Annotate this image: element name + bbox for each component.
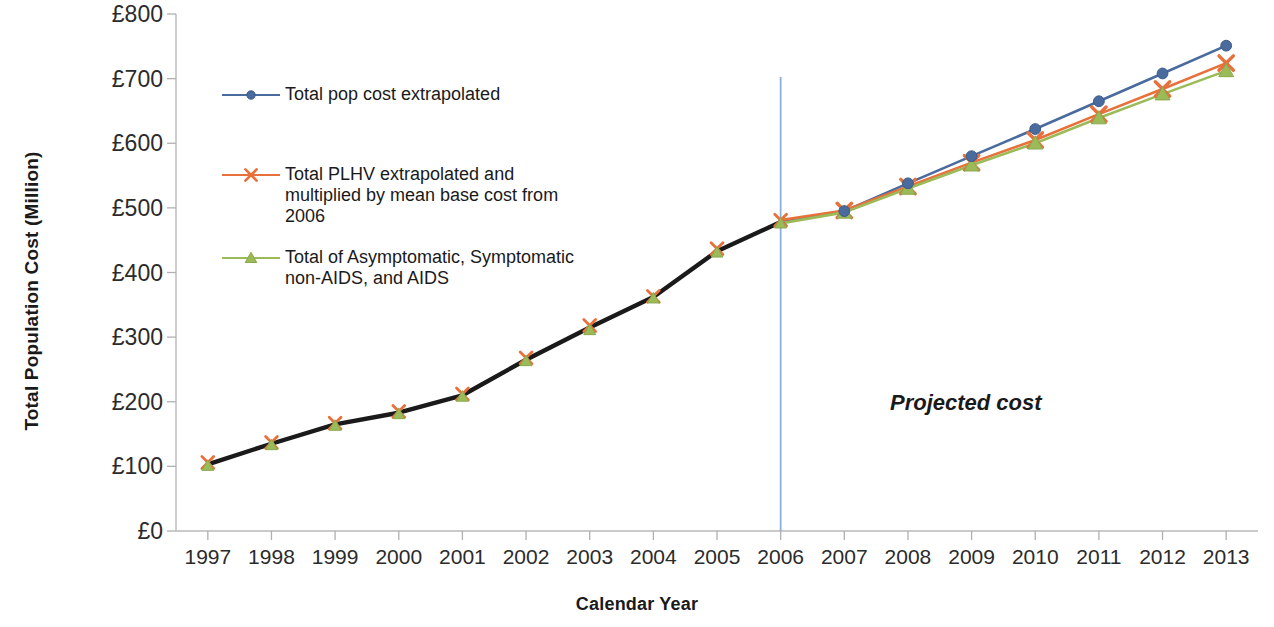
data-point-marker-x bbox=[245, 169, 256, 180]
data-point-marker-circle bbox=[903, 178, 914, 189]
legend-key-marker bbox=[239, 246, 263, 270]
data-point-marker-circle bbox=[1030, 124, 1041, 135]
chart-figure: Total Population Cost (Million) Calendar… bbox=[0, 0, 1274, 627]
data-point-marker-circle bbox=[1093, 96, 1104, 107]
data-point-marker-circle bbox=[247, 91, 255, 99]
legend-key-swatch bbox=[222, 247, 280, 268]
data-point-marker-circle bbox=[1221, 40, 1232, 51]
plot-area bbox=[0, 0, 1274, 627]
legend-key-marker bbox=[239, 83, 263, 107]
data-point-marker-circle bbox=[839, 206, 850, 217]
legend-entry-label: Total pop cost extrapolated bbox=[285, 84, 500, 105]
legend-entry[interactable]: Total pop cost extrapolated bbox=[222, 84, 500, 105]
legend-entry-label: Total of Asymptomatic, Symptomatic non-A… bbox=[285, 247, 574, 289]
legend-key-swatch bbox=[222, 164, 280, 185]
data-point-marker-triangle bbox=[245, 252, 257, 262]
data-point-marker-circle bbox=[1157, 68, 1168, 79]
data-point-marker-circle bbox=[966, 151, 977, 162]
legend-entry-label: Total PLHV extrapolated and multiplied b… bbox=[285, 164, 558, 227]
projected-cost-annotation: Projected cost bbox=[890, 390, 1042, 416]
legend-key-marker bbox=[239, 163, 263, 187]
legend-entry[interactable]: Total of Asymptomatic, Symptomatic non-A… bbox=[222, 247, 574, 289]
legend-key-swatch bbox=[222, 84, 280, 105]
legend-entry[interactable]: Total PLHV extrapolated and multiplied b… bbox=[222, 164, 558, 227]
